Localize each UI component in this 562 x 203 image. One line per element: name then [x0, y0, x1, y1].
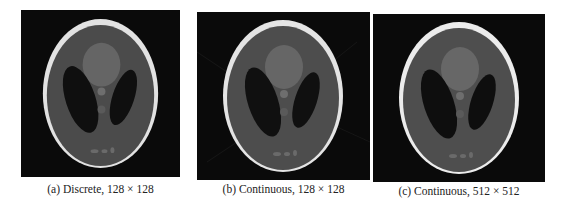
caption-a: (a) Discrete, 128 × 128 [21, 183, 180, 195]
phantom-image-b [197, 12, 370, 180]
phantom-image-a [21, 10, 180, 177]
shepp-logan-phantom-continuous-128 [197, 12, 370, 180]
shepp-logan-phantom-discrete [21, 10, 180, 177]
caption-b: (b) Continuous, 128 × 128 [197, 183, 370, 195]
phantom-image-c [373, 14, 545, 182]
shepp-logan-phantom-continuous-512 [373, 14, 545, 182]
caption-c: (c) Continuous, 512 × 512 [373, 185, 545, 197]
